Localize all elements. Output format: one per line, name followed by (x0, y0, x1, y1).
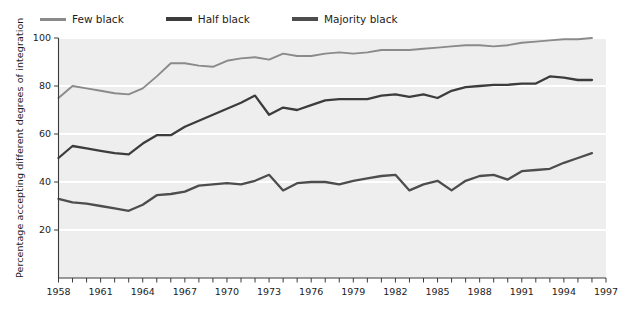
y-tick-label: 80 (39, 80, 51, 91)
plot-background (59, 38, 607, 278)
x-tick-label: 1994 (552, 286, 576, 297)
x-tick-label: 1991 (510, 286, 534, 297)
x-tick-label: 1976 (299, 286, 323, 297)
x-tick-label: 1958 (46, 286, 70, 297)
y-tick-label: 40 (39, 176, 51, 187)
x-tick-label: 1967 (173, 286, 197, 297)
x-axis-ticks: 1958196119641967197019731976197919821985… (46, 278, 618, 297)
x-tick-label: 1964 (131, 286, 155, 297)
x-tick-label: 1997 (594, 286, 618, 297)
chart-figure: Few black Half black Majority black Perc… (0, 0, 622, 313)
y-tick-label: 20 (39, 224, 51, 235)
y-tick-label: 100 (33, 32, 51, 43)
y-tick-label: 60 (39, 128, 51, 139)
x-tick-label: 1973 (257, 286, 281, 297)
plot-area: 20406080100 1958196119641967197019731976… (0, 0, 622, 313)
x-tick-label: 1982 (383, 286, 407, 297)
chart-svg: 20406080100 1958196119641967197019731976… (0, 0, 622, 313)
x-tick-label: 1988 (468, 286, 492, 297)
x-tick-label: 1970 (215, 286, 239, 297)
x-tick-label: 1985 (425, 286, 449, 297)
y-axis-ticks: 20406080100 (33, 32, 59, 235)
x-tick-label: 1961 (89, 286, 113, 297)
x-tick-label: 1979 (341, 286, 365, 297)
